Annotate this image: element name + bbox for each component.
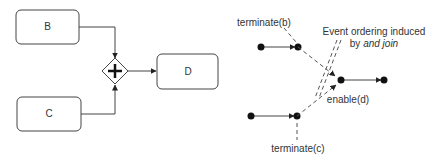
label-enable-d: enable(d) (327, 94, 369, 105)
pointer-terminate-b (284, 28, 296, 42)
node-b-start[interactable] (258, 44, 265, 51)
node-c-start[interactable] (248, 113, 255, 120)
bpmn-diagram: B C D (16, 10, 218, 131)
pointer-annotation-1 (315, 40, 337, 98)
annotation-line-2: by and join (350, 38, 399, 49)
flow-b-to-gateway (79, 27, 115, 58)
label-terminate-c: terminate(c) (271, 143, 324, 154)
task-c[interactable]: C (17, 97, 81, 131)
task-d-label: D (184, 66, 191, 77)
parallel-gateway[interactable] (102, 58, 128, 84)
label-terminate-b: terminate(b) (237, 17, 291, 28)
annotation-prefix: by (350, 38, 363, 49)
annotation-line-1: Event ordering induced (323, 26, 426, 37)
task-d[interactable]: D (157, 54, 218, 89)
task-b[interactable]: B (16, 10, 79, 44)
diagram-canvas: B C D (0, 0, 434, 163)
task-b-label: B (44, 21, 51, 32)
node-join[interactable] (338, 77, 345, 84)
node-d-end[interactable] (381, 77, 388, 84)
task-c-label: C (45, 108, 52, 119)
annotation-italic: and join (363, 38, 398, 49)
event-ordering-diagram: terminate(b) Event ordering induced by a… (237, 17, 425, 154)
ordering-edge-b (298, 47, 335, 76)
flow-c-to-gateway (81, 85, 115, 114)
